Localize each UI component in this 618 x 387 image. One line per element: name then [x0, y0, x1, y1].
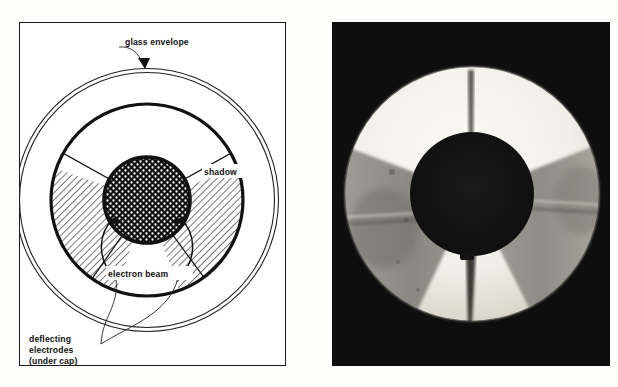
- photograph-panel: [332, 22, 610, 366]
- photograph-svg: [332, 22, 610, 366]
- diagram-panel: glass envelope shadow electron beam defl…: [19, 22, 286, 366]
- glass-envelope-leader: [119, 47, 150, 69]
- photo-center-cap: [410, 132, 534, 256]
- label-glass-envelope: glass envelope: [125, 37, 189, 47]
- label-electron-beam: electron beam: [108, 269, 168, 279]
- figure-root: glass envelope shadow electron beam defl…: [0, 0, 618, 387]
- label-deflecting-electrodes-line1: deflecting: [29, 334, 71, 344]
- electron-beam-cap: [104, 157, 190, 243]
- label-shadow: shadow: [204, 167, 237, 177]
- photo-cap-tab: [460, 250, 474, 260]
- label-deflecting-electrodes-line2: electrodes: [29, 345, 74, 355]
- diagram-svg: glass envelope shadow electron beam defl…: [19, 22, 286, 366]
- label-deflecting-electrodes-line3: (under cap): [29, 356, 77, 366]
